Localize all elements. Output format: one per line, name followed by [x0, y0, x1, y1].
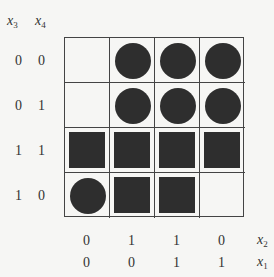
- row2-x4: 1: [38, 144, 45, 158]
- col3-x2: 0: [218, 234, 225, 248]
- square-icon: [159, 132, 195, 168]
- square-icon: [159, 177, 195, 213]
- x2-label: x2: [257, 233, 268, 251]
- square-icon: [69, 132, 105, 168]
- circle-icon: [160, 88, 196, 124]
- row0-x3: 0: [15, 54, 22, 68]
- col2-x1: 1: [173, 256, 180, 270]
- square-icon: [204, 132, 240, 168]
- cell-r1-c3: [200, 83, 245, 128]
- cell-r1-c0: [65, 83, 110, 128]
- col1-x2: 1: [128, 234, 135, 248]
- cell-r0-c2: [155, 38, 200, 83]
- col2-x2: 1: [173, 234, 180, 248]
- cell-r3-c3: [200, 173, 245, 218]
- cell-r0-c3: [200, 38, 245, 83]
- col1-x1: 0: [128, 256, 135, 270]
- circle-icon: [70, 178, 106, 214]
- cell-r0-c0: [65, 38, 110, 83]
- square-icon: [114, 132, 150, 168]
- cell-r1-c2: [155, 83, 200, 128]
- col0-x2: 0: [83, 234, 90, 248]
- circle-icon: [115, 43, 151, 79]
- row3-x4: 0: [38, 189, 45, 203]
- cell-r1-c1: [110, 83, 155, 128]
- row0-x4: 0: [38, 54, 45, 68]
- square-icon: [114, 177, 150, 213]
- cell-r2-c1: [110, 128, 155, 173]
- x3-header: x3: [7, 14, 18, 32]
- circle-icon: [205, 88, 241, 124]
- cell-r3-c1: [110, 173, 155, 218]
- x1-label: x1: [257, 255, 268, 273]
- circle-icon: [115, 88, 151, 124]
- row1-x4: 1: [38, 99, 45, 113]
- cell-r3-c0: [65, 173, 110, 218]
- col3-x1: 1: [218, 256, 225, 270]
- cell-r3-c2: [155, 173, 200, 218]
- row1-x3: 0: [15, 99, 22, 113]
- cell-r0-c1: [110, 38, 155, 83]
- row2-x3: 1: [15, 144, 22, 158]
- circle-icon: [160, 43, 196, 79]
- circle-icon: [205, 43, 241, 79]
- cell-r2-c3: [200, 128, 245, 173]
- col0-x1: 0: [83, 256, 90, 270]
- karnaugh-grid: [64, 37, 244, 217]
- row3-x3: 1: [15, 189, 22, 203]
- cell-r2-c0: [65, 128, 110, 173]
- x4-header: x4: [35, 14, 46, 32]
- cell-r2-c2: [155, 128, 200, 173]
